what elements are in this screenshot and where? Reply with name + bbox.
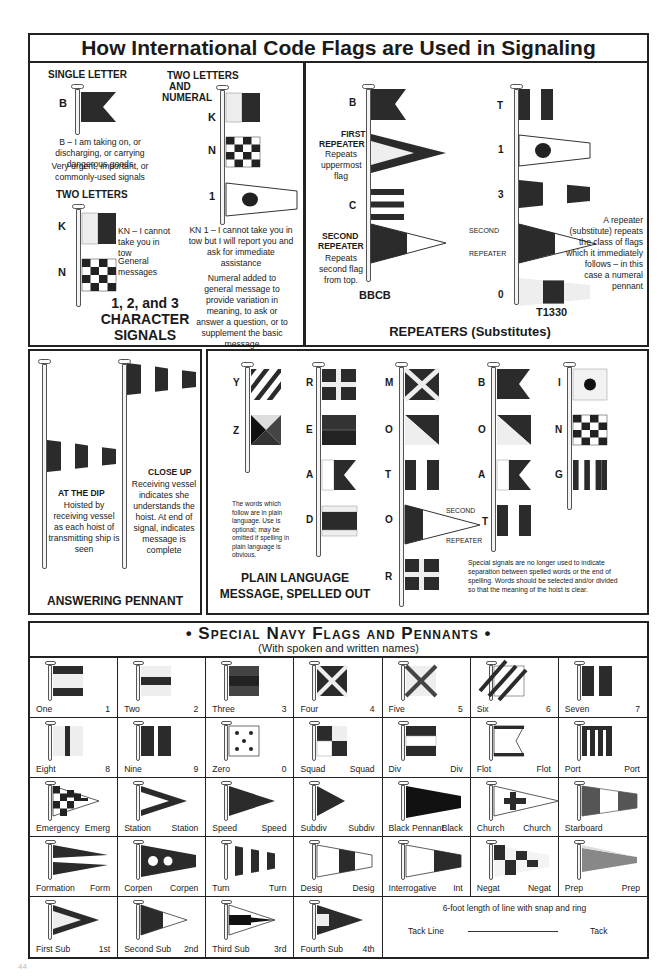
flag-spoken-name: Prep [565,883,583,893]
flag-r-icon [322,369,356,400]
tack-line-label: Tack Line [408,926,444,937]
special-note: Special signals are no longer used to in… [468,558,625,594]
navy-flag-cell: SquadSquad [294,718,382,778]
flag-letter-k: K [58,220,66,232]
flag-letter-g: G [555,469,563,480]
flag-letter-b: B [59,97,67,109]
flagpole [48,904,52,940]
flag-spoken-name: Speed [212,823,237,833]
second-repeater-desc: Repeats second flag from top. [318,253,364,286]
flagpole [312,665,316,701]
navy-flag-cell: Starboard [559,778,647,838]
flag-o-icon [497,415,531,445]
flag-letter-n: N [58,266,66,278]
pole-cap [133,781,144,785]
flagpole [399,367,404,607]
flag-written-name: 6 [546,704,551,714]
section-title-line-3: SIGNALS [95,327,195,343]
flag-spoken-name: First Sub [36,944,70,954]
flag-a-icon [322,460,356,490]
flag-seven-icon [582,666,648,699]
flag-spoken-name: Squad [300,764,325,774]
flag-spoken-name: Second Sub [124,944,171,954]
section-title-line-2: CHARACTER [95,311,195,327]
tack-line-note: 6-foot length of line with snap and ring [382,903,647,914]
flagpole [577,844,581,880]
flagpole [136,665,140,701]
flag-written-name: Black [442,823,463,833]
repeater-label: REPEATER [469,248,506,259]
flag-letter-e: E [306,424,313,435]
flag-letter-n: N [208,144,216,156]
navy-flag-cell: One1 [30,658,118,718]
flag-spoken-name: One [36,704,52,714]
navy-flag-cell: PrepPrep [559,837,647,897]
flag-written-name: 5 [458,704,463,714]
navy-flag-cell: SubdivSubdiv [294,778,382,838]
pennant-negat-icon [494,845,560,878]
pennant-one-icon [226,183,298,217]
flag-g-icon [573,460,607,490]
pennant-speed-icon [229,786,295,819]
pole-cap [221,781,232,785]
flag-written-name: 7 [635,704,640,714]
pennant-church-icon [494,786,560,819]
close-up-desc: Receiving vessel indicates she understan… [130,479,198,556]
panel-divider [303,63,306,347]
answering-pennant-at-dip-icon [47,440,117,473]
pennant-zero-icon [519,278,591,306]
numeral-note: Numeral added to general message to prov… [195,273,289,350]
navy-flag-cell: DivDiv [383,718,471,778]
flag-letter-o: O [385,424,393,435]
flagpole [489,725,493,761]
flag-letter-a: A [306,469,313,480]
flagpole [224,844,228,880]
flag-n-icon [573,415,607,445]
single-letter-heading: SINGLE LETTER [48,69,127,80]
flag-five-icon [406,666,472,699]
general-messages: General messages [118,256,188,278]
navy-flag-cell: PortPort [559,718,647,778]
flag-letter-y: Y [233,377,240,388]
flag-spoken-name: Subdiv [300,823,326,833]
flag-four-icon [317,666,383,699]
flag-written-name: 0 [282,764,287,774]
numeral-three-label: 3 [498,189,504,200]
flag-spoken-name: Two [124,704,140,714]
navy-flag-cell: First Sub1st [30,897,118,957]
flagpole [136,785,140,821]
flag-spoken-name: Desig [300,883,322,893]
flag-eight-icon [53,726,119,759]
flag-written-name: 8 [105,764,110,774]
pennant-fourth-sub-icon [317,905,383,938]
navy-flag-cell: TurnTurn [206,837,294,897]
flag-letter-o: O [385,514,393,525]
flag-written-name: 3 [282,704,287,714]
flagpole [136,725,140,761]
flag-letter-t: T [385,469,391,480]
flagpole [489,785,493,821]
flag-n-icon [82,259,116,291]
flag-spoken-name: Three [212,704,234,714]
flag-k-icon [82,213,116,245]
flagpole [401,725,405,761]
navy-flag-cell: Fourth Sub4th [294,897,382,957]
section-title-line-1: 1, 2, and 3 [100,295,190,311]
at-the-dip-title: AT THE DIP [58,488,105,498]
navy-flag-cell: Black PennantBlack [383,778,471,838]
flagpole [491,367,496,552]
pennant-one-icon [519,135,591,167]
flagpole [224,904,228,940]
flag-spoken-name: Seven [565,704,589,714]
navy-flag-cell: ChurchChurch [471,778,559,838]
numeral-one-label: 1 [209,190,215,202]
flagpole [48,844,52,880]
flag-div-icon [406,726,472,759]
flag-spoken-name: Five [389,704,405,714]
navy-flag-cell: FormationForm [30,837,118,897]
flag-squad-icon [317,726,383,759]
flag-letter-t: T [497,100,503,111]
flag-spoken-name: Black Pennant [389,823,444,833]
flagpole [577,665,581,701]
flag-written-name: Prep [622,883,640,893]
